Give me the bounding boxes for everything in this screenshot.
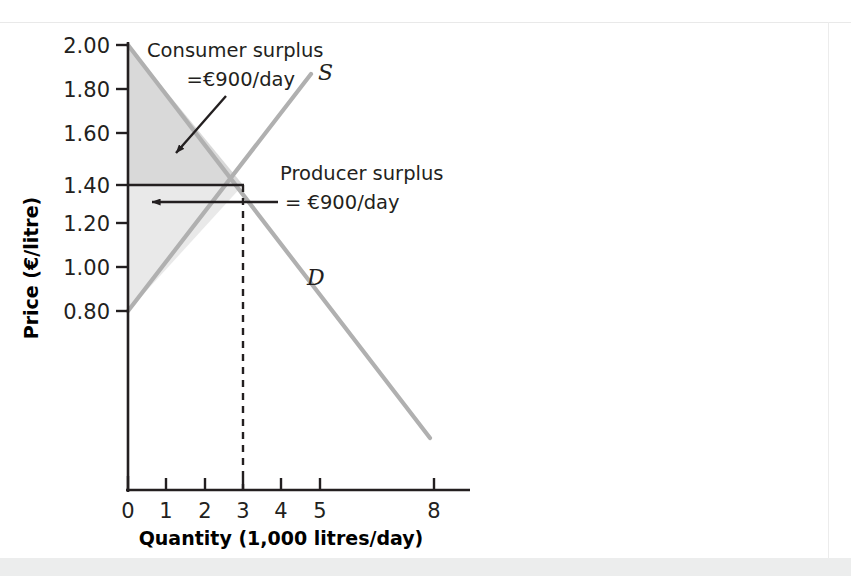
x-tick-label: 8 — [427, 499, 440, 523]
y-tick-label: 1.60 — [63, 122, 110, 146]
y-tick-label: 0.80 — [63, 300, 110, 324]
consumer-surplus-label-line1: Consumer surplus — [147, 39, 323, 62]
x-tick-label: 4 — [274, 499, 287, 523]
y-tick-label: 2.00 — [63, 34, 110, 58]
producer-surplus-label-line1: Producer surplus — [280, 162, 443, 185]
y-tick-label: 1.80 — [63, 78, 110, 102]
y-axis-tick-labels: 2.00 1.80 1.60 1.40 1.20 1.00 0.80 — [63, 34, 110, 324]
producer-surplus-label-line2: = €900/day — [285, 191, 400, 214]
x-tick-label: 1 — [159, 499, 172, 523]
x-axis-title: Quantity (1,000 litres/day) — [139, 527, 424, 549]
x-axis-ticks — [128, 476, 434, 490]
x-tick-label: 2 — [198, 499, 211, 523]
y-axis-title: Price (€/litre) — [20, 197, 42, 339]
x-tick-label: 5 — [313, 499, 326, 523]
x-tick-label: 3 — [236, 499, 249, 523]
supply-curve-label: S — [318, 60, 333, 85]
figure-root: 2.00 1.80 1.60 1.40 1.20 1.00 0.80 0 1 2… — [0, 0, 851, 576]
y-tick-label: 1.40 — [63, 174, 110, 198]
y-tick-label: 1.00 — [63, 256, 110, 280]
x-axis-tick-labels: 0 1 2 3 4 5 8 — [121, 499, 440, 523]
y-axis-ticks — [116, 45, 128, 311]
demand-curve-label: D — [306, 265, 325, 290]
producer-surplus-region — [128, 185, 243, 311]
y-tick-label: 1.20 — [63, 212, 110, 236]
consumer-surplus-label-line2: =€900/day — [187, 68, 295, 91]
x-tick-label: 0 — [121, 499, 134, 523]
supply-demand-chart: 2.00 1.80 1.60 1.40 1.20 1.00 0.80 0 1 2… — [0, 0, 851, 576]
